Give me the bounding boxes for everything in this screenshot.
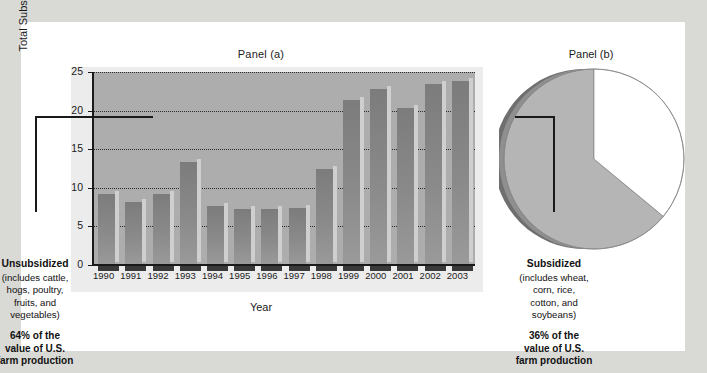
leader-line-left-vertical (35, 116, 37, 212)
year-label: 1995 (226, 270, 253, 281)
bar (370, 89, 387, 265)
bar-front-face (343, 100, 360, 265)
bar-front-face (370, 89, 387, 265)
year-label: 2003 (444, 270, 471, 281)
leader-line-left-horizontal (35, 116, 153, 118)
bar-front-face (397, 108, 414, 265)
bar-side-face (333, 166, 337, 263)
y-tick-label: 5 (61, 220, 83, 231)
leader-line-right-horizontal (515, 116, 555, 118)
panel-a-plot-area (92, 72, 475, 265)
callout-unsubsidized-title: Unsubsidized (0, 258, 90, 271)
bar-side-face (387, 86, 391, 262)
year-label: 1994 (199, 270, 226, 281)
y-axis-label: Total Subsidies ($ billions) (17, 0, 29, 78)
bar-side-face (360, 97, 364, 262)
figure-root: Panel (a) Total Subsidies ($ billions) 0… (0, 0, 707, 373)
year-label: 1990 (90, 270, 117, 281)
leader-line-right-vertical (553, 116, 555, 212)
bar (125, 202, 142, 265)
callout-subsidized: Subsidized (includes wheat,corn, rice,co… (499, 258, 609, 368)
panel-a-title: Panel (a) (181, 48, 341, 60)
callout-subsidized-percent: 36% of thevalue of U.S.farm production (499, 330, 609, 368)
year-label: 2000 (362, 270, 389, 281)
bar-front-face (125, 202, 142, 265)
bar-front-face (234, 209, 251, 265)
callout-subsidized-body: (includes wheat,corn, rice,cotton, andso… (499, 272, 609, 322)
bar (397, 108, 414, 265)
bar (207, 206, 224, 265)
bar-side-face (115, 191, 119, 262)
bar-side-face (170, 191, 174, 262)
year-label: 1998 (308, 270, 335, 281)
year-label: 1996 (253, 270, 280, 281)
y-tick-label: 10 (61, 182, 83, 193)
bar-side-face (414, 105, 418, 262)
year-label: 2002 (417, 270, 444, 281)
pie-chart (499, 64, 689, 254)
year-label: 1997 (281, 270, 308, 281)
bar (261, 209, 278, 265)
bar (316, 169, 333, 266)
bar-front-face (452, 81, 469, 265)
bar-side-face (224, 203, 228, 262)
bar-side-face (306, 205, 310, 262)
bar-side-face (278, 206, 282, 262)
bar (98, 194, 115, 265)
bar-front-face (289, 208, 306, 265)
y-tick-label: 25 (61, 66, 83, 77)
callout-unsubsidized: Unsubsidized (includes cattle,hogs, poul… (0, 258, 90, 368)
year-label: 1999 (335, 270, 362, 281)
bar (180, 162, 197, 265)
x-axis-baseline (94, 264, 475, 266)
bar-series (94, 72, 475, 265)
bar-front-face (207, 206, 224, 265)
year-label: 1993 (172, 270, 199, 281)
figure-card: Panel (a) Total Subsidies ($ billions) 0… (21, 22, 685, 351)
year-label: 1992 (144, 270, 171, 281)
x-axis-label: Year (181, 301, 341, 313)
bar-side-face (469, 78, 473, 262)
bar (289, 208, 306, 265)
x-axis-tick-labels: 1990199119921993199419951996199719981999… (92, 270, 473, 286)
bar (153, 194, 170, 265)
y-tick-label: 20 (61, 105, 83, 116)
callout-subsidized-title: Subsidized (499, 258, 609, 271)
year-label: 1991 (117, 270, 144, 281)
bar-side-face (197, 159, 201, 262)
bar-side-face (142, 199, 146, 262)
bar (425, 84, 442, 265)
bar-front-face (425, 84, 442, 265)
bar-front-face (180, 162, 197, 265)
bar-side-face (442, 81, 446, 262)
pie-chart-svg (499, 64, 689, 254)
bar-front-face (316, 169, 333, 266)
panel-b-title: Panel (b) (531, 48, 651, 60)
bar (343, 100, 360, 265)
bar-front-face (98, 194, 115, 265)
bar (452, 81, 469, 265)
callout-unsubsidized-percent: 64% of thevalue of U.S.farm production (0, 330, 90, 368)
y-tick-label: 15 (61, 143, 83, 154)
bar (234, 209, 251, 265)
bar-side-face (251, 206, 255, 262)
bar-front-face (261, 209, 278, 265)
bar-front-face (153, 194, 170, 265)
callout-unsubsidized-body: (includes cattle,hogs, poultry,fruits, a… (0, 272, 90, 322)
year-label: 2001 (389, 270, 416, 281)
